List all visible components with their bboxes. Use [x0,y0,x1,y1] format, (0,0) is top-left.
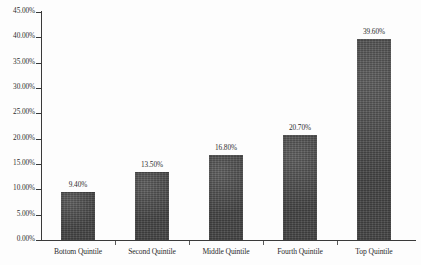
bar-value-label: 16.80% [215,143,237,152]
bar-group: 20.70% [283,119,317,240]
x-axis-tick-mark [263,241,264,245]
y-axis-tick-label: 25.00% [13,107,35,116]
y-axis-tick-label: 45.00% [13,6,35,15]
bar-group: 13.50% [135,156,169,240]
y-axis-tick-label: 5.00% [17,209,35,218]
y-axis-tick-label: 20.00% [13,133,35,142]
x-axis-category-label: Second Quintile [128,247,176,256]
y-axis-tick-label: 35.00% [13,57,35,66]
y-axis-tick-label: 0.00% [17,234,35,243]
x-axis-line [41,240,416,241]
x-axis-tick-mark [337,241,338,245]
x-axis-tick-mark [115,241,116,245]
bar-group: 9.40% [61,176,95,240]
bar-value-label: 13.50% [141,160,163,169]
x-axis-category-label: Top Quintile [355,247,392,256]
bar [135,172,169,240]
bar-value-label: 39.60% [363,27,385,36]
bar [209,155,243,240]
x-axis-category-label: Middle Quintile [202,247,249,256]
bar-value-label: 9.40% [69,180,87,189]
y-axis-tick-label: 15.00% [13,158,35,167]
y-axis-tick-label: 10.00% [13,183,35,192]
y-axis-tick-label: 30.00% [13,82,35,91]
x-axis-tick-mark [189,241,190,245]
bar [283,135,317,240]
y-axis-tick-label: 40.00% [13,31,35,40]
bar [61,192,95,240]
x-axis-category-label: Fourth Quintile [277,247,323,256]
bar-chart: 0.00%5.00%10.00%15.00%20.00%25.00%30.00%… [0,0,421,265]
y-axis-tick-mark [36,240,41,241]
bar [357,39,391,240]
bar-value-label: 20.70% [289,123,311,132]
bar-group: 16.80% [209,139,243,240]
x-axis-category-label: Bottom Quintile [54,247,102,256]
bar-group: 39.60% [357,23,391,240]
plot-area: 9.40%13.50%16.80%20.70%39.60% [41,12,415,240]
